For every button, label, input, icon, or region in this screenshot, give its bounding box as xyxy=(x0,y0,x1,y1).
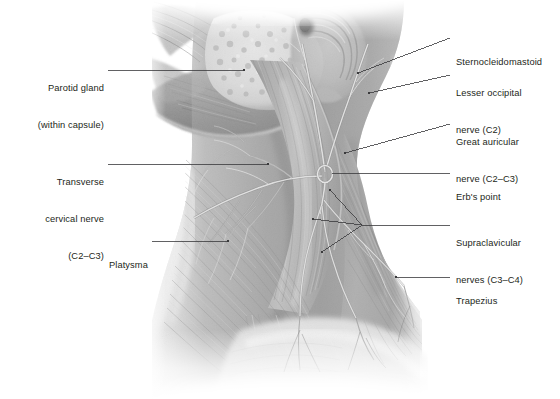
label-supraclavicular-nerves-line1: Supraclavicular xyxy=(456,237,560,249)
label-platysma: Platysma xyxy=(8,235,148,284)
label-trapezius-line1: Trapezius xyxy=(456,295,560,307)
label-transverse-cervical-nerve-line2: cervical nerve xyxy=(8,213,104,225)
label-erbs-point-line1: Erb's point xyxy=(456,191,560,203)
label-platysma-line1: Platysma xyxy=(8,259,148,271)
label-trapezius: Trapezius xyxy=(456,271,560,320)
label-lesser-occipital-nerve-line1: Lesser occipital xyxy=(456,87,560,99)
label-great-auricular-nerve-line1: Great auricular xyxy=(456,136,560,148)
label-erbs-point: Erb's point xyxy=(456,167,560,216)
label-parotid-gland-line2: (within capsule) xyxy=(8,119,104,131)
label-parotid-gland-line1: Parotid gland xyxy=(8,82,104,94)
figure-canvas: Parotid gland (within capsule) Transvers… xyxy=(0,0,560,399)
label-parotid-gland: Parotid gland (within capsule) xyxy=(8,58,104,143)
label-transverse-cervical-nerve-line1: Transverse xyxy=(8,176,104,188)
